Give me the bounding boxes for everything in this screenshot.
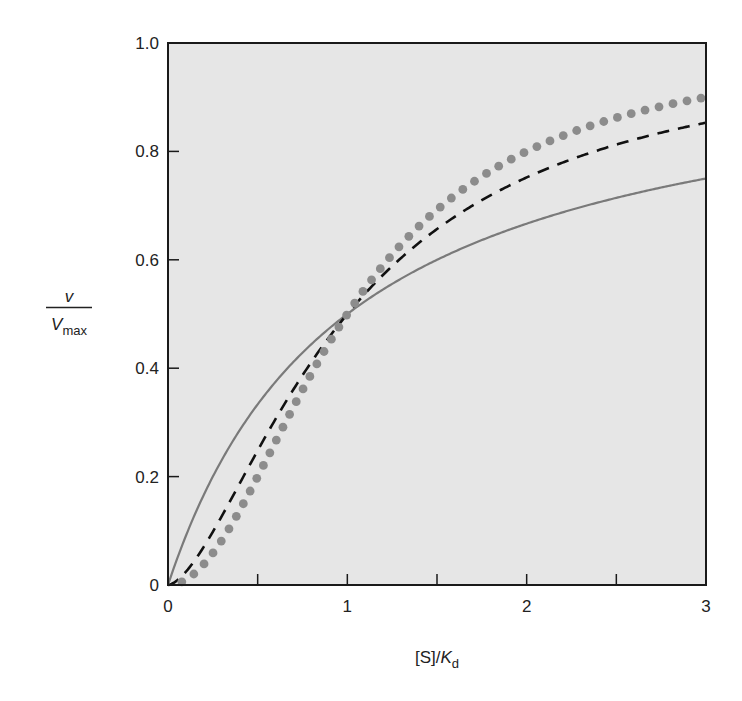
series-dot — [285, 410, 294, 419]
series-dot — [599, 117, 608, 126]
series-dot — [305, 372, 314, 381]
series-dot — [312, 360, 321, 369]
series-dot — [572, 126, 581, 135]
series-dot — [246, 487, 255, 496]
series-dot — [458, 185, 467, 194]
series-dot — [239, 499, 248, 508]
series-dot — [520, 148, 529, 157]
series-dot — [436, 203, 445, 212]
series-dot — [385, 253, 394, 262]
series-dot — [350, 299, 359, 308]
series-dot — [376, 264, 385, 273]
x-tick-label: 2 — [522, 597, 531, 616]
series-dot — [292, 397, 301, 406]
y-tick-label: 0.2 — [135, 468, 159, 487]
series-dot — [272, 436, 281, 445]
series-dot — [232, 512, 241, 521]
y-tick-label: 0.6 — [135, 251, 159, 270]
series-dot — [200, 560, 209, 569]
y-tick-label: 1.0 — [135, 34, 159, 53]
series-dot — [225, 524, 234, 533]
x-tick-label: 1 — [343, 597, 352, 616]
x-tick-label: 0 — [163, 597, 172, 616]
series-dot — [532, 142, 541, 151]
series-dot — [683, 96, 692, 105]
series-dot — [697, 94, 706, 103]
series-dot — [209, 548, 218, 557]
series-dot — [342, 311, 351, 320]
series-dot — [613, 113, 622, 122]
series-dot — [470, 177, 479, 186]
series-dot — [425, 212, 434, 221]
series-dot — [252, 474, 261, 483]
series-dot — [259, 461, 268, 470]
y-tick-label: 0.4 — [135, 359, 159, 378]
series-dot — [265, 448, 274, 457]
series-dot — [669, 99, 678, 108]
y-axis-title: v Vmax — [46, 287, 92, 338]
series-dot — [546, 136, 555, 145]
series-dot — [482, 169, 491, 178]
x-tick-label: 3 — [701, 597, 710, 616]
series-dot — [299, 384, 308, 393]
x-axis-title-main: [S]/ — [415, 648, 441, 667]
series-dot — [335, 323, 344, 332]
series-dot — [395, 242, 404, 251]
series-dot — [447, 194, 456, 203]
y-axis-title-denominator: Vmax — [51, 315, 87, 338]
series-dot — [359, 287, 368, 296]
series-dot — [559, 131, 568, 140]
series-dot — [217, 537, 226, 546]
series-dot — [655, 102, 664, 111]
x-axis-title-italic: K — [440, 648, 452, 667]
chart: 0123 00.20.40.60.81.0 [S]/Kd v Vmax — [0, 0, 742, 701]
y-tick-label: 0.8 — [135, 142, 159, 161]
series-dot — [320, 347, 329, 356]
series-dot — [327, 335, 336, 344]
y-tick-label: 0 — [150, 576, 159, 595]
series-dot — [507, 155, 516, 164]
series-dot — [641, 106, 650, 115]
series-dot — [627, 109, 636, 118]
series-dot — [586, 121, 595, 130]
plot-background — [168, 43, 706, 585]
series-dot — [404, 232, 413, 241]
x-axis-title: [S]/Kd — [415, 648, 459, 671]
series-dot — [415, 222, 424, 231]
series-dot — [279, 423, 288, 432]
series-dot — [367, 275, 376, 284]
y-axis-title-numerator: v — [65, 287, 75, 306]
x-axis-title-subscript: d — [452, 656, 459, 671]
series-dot — [189, 570, 198, 579]
series-dot — [494, 162, 503, 171]
